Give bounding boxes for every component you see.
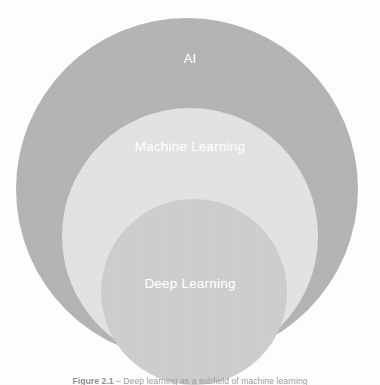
figure-caption-text: Deep learning as a subfield of machine l… xyxy=(123,376,307,385)
figure-nested-circles: AI Machine Learning Deep Learning Figure… xyxy=(0,0,380,385)
figure-caption: Figure 2.1 – Deep learning as a subfield… xyxy=(0,376,380,385)
circle-label-machine-learning: Machine Learning xyxy=(0,140,380,154)
circle-label-deep-learning-word2: Learning xyxy=(181,276,235,291)
circle-label-deep-learning: Deep Learning xyxy=(0,277,380,291)
figure-caption-separator: – xyxy=(114,376,124,385)
circle-label-ai: AI xyxy=(0,52,380,65)
figure-caption-number: Figure 2.1 xyxy=(72,376,113,385)
circle-label-deep-learning-word1: Deep xyxy=(144,276,177,291)
circle-deep-learning xyxy=(101,199,287,385)
